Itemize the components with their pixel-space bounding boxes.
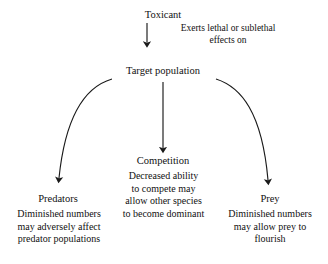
- node-prey-title: Prey: [228, 193, 312, 206]
- node-competition-body: Decreased ability to compete may allow o…: [106, 170, 221, 220]
- node-toxicant: Toxicant: [113, 9, 213, 22]
- edge-target-to-prey: [216, 79, 268, 180]
- flow-diagram: Toxicant Exerts lethal or sublethal effe…: [0, 0, 328, 264]
- node-target-population: Target population: [108, 65, 218, 78]
- node-competition-title: Competition: [113, 155, 213, 168]
- node-predators-title: Predators: [13, 193, 103, 206]
- node-prey-body: Diminished numbers may allow prey to flo…: [214, 208, 326, 246]
- node-predators-body: Diminished numbers may adversely affect …: [3, 208, 115, 246]
- edge-target-to-predators: [59, 79, 112, 178]
- edge-label-exerts-lethal: Exerts lethal or sublethal effects on: [152, 22, 304, 46]
